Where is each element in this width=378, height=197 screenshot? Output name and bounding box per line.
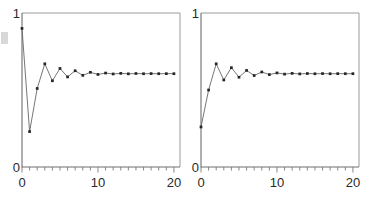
data-point-marker: [268, 73, 271, 76]
data-series-right: [200, 62, 355, 128]
data-point-marker: [74, 69, 77, 72]
data-point-marker: [97, 73, 100, 76]
data-point-marker: [21, 27, 24, 30]
data-point-marker: [298, 73, 301, 76]
data-point-marker: [59, 67, 62, 70]
x-axis-ticks-left: [22, 167, 174, 173]
scan-artifact-speck: [1, 32, 8, 44]
data-point-marker: [119, 72, 122, 75]
chart-panel-right: 1 0 01020: [189, 0, 378, 197]
data-point-marker: [36, 87, 39, 90]
data-point-marker: [173, 72, 176, 75]
data-point-marker: [112, 73, 115, 76]
data-point-marker: [104, 72, 107, 75]
chart-panel-left: 1 0 01020: [0, 0, 189, 197]
series-markers: [200, 62, 355, 128]
data-point-marker: [150, 72, 153, 75]
data-point-marker: [142, 72, 145, 75]
x-axis-tick-label: 10: [270, 175, 284, 190]
data-point-marker: [135, 72, 138, 75]
y-axis-label-bottom: 0: [13, 160, 20, 175]
data-point-marker: [222, 79, 225, 82]
two-panel-convergence-figure: 1 0 01020 1 0 01020: [0, 0, 378, 197]
x-axis-tick-label: 10: [91, 175, 105, 190]
data-point-marker: [43, 62, 46, 65]
x-axis-ticks-right: [201, 167, 353, 173]
data-point-marker: [238, 76, 241, 79]
series-markers: [21, 27, 176, 133]
data-point-marker: [89, 71, 92, 74]
data-point-marker: [329, 72, 332, 75]
data-point-marker: [306, 72, 309, 75]
plot-frame-right: [201, 13, 359, 167]
x-axis-tick-label: 20: [346, 175, 360, 190]
series-line: [22, 28, 174, 131]
data-point-marker: [276, 72, 279, 75]
data-point-marker: [66, 76, 69, 79]
x-axis-labels-left: 01020: [18, 175, 181, 190]
data-point-marker: [200, 126, 203, 129]
data-point-marker: [215, 62, 218, 65]
x-axis-tick-label: 0: [197, 175, 204, 190]
data-point-marker: [127, 72, 130, 75]
x-axis-tick-label: 20: [167, 175, 181, 190]
data-point-marker: [253, 74, 256, 77]
data-point-marker: [245, 69, 248, 72]
data-point-marker: [165, 72, 168, 75]
y-axis-label-top: 1: [192, 6, 199, 21]
x-axis-labels-right: 01020: [197, 175, 360, 190]
data-point-marker: [51, 79, 54, 82]
y-axis-label-top: 1: [13, 6, 20, 21]
data-point-marker: [260, 71, 263, 74]
data-point-marker: [344, 72, 347, 75]
data-point-marker: [314, 72, 317, 75]
data-point-marker: [352, 72, 355, 75]
data-point-marker: [283, 73, 286, 76]
data-point-marker: [81, 74, 84, 77]
data-point-marker: [321, 72, 324, 75]
plot-frame-left: [22, 13, 180, 167]
data-point-marker: [230, 66, 233, 69]
data-series-left: [21, 27, 176, 133]
data-point-marker: [28, 130, 31, 133]
data-point-marker: [157, 72, 160, 75]
data-point-marker: [291, 72, 294, 75]
data-point-marker: [336, 72, 339, 75]
x-axis-tick-label: 0: [18, 175, 25, 190]
chart-svg-right: 1 0 01020: [189, 0, 378, 197]
chart-svg-left: 1 0 01020: [0, 0, 189, 197]
data-point-marker: [207, 89, 210, 92]
y-axis-label-bottom: 0: [192, 160, 199, 175]
